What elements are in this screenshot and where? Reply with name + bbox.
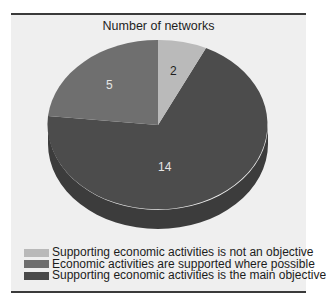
legend-swatch (24, 272, 49, 280)
data-label-supported-where-possible: 5 (106, 78, 113, 92)
data-label-main-objective: 14 (158, 160, 171, 174)
pie-chart (11, 15, 306, 245)
chart-panel: Number of networks 2 5 14 Supporting eco… (11, 13, 306, 293)
pie-slice-supported-where-possible[interactable] (48, 40, 158, 125)
legend: Supporting economic activities is not an… (24, 247, 326, 282)
legend-swatch (24, 249, 49, 257)
legend-swatch (24, 260, 49, 268)
legend-item-main-objective: Supporting economic activities is the ma… (24, 270, 326, 282)
legend-label: Supporting economic activities is the ma… (52, 270, 326, 282)
data-label-not-objective: 2 (170, 64, 177, 78)
